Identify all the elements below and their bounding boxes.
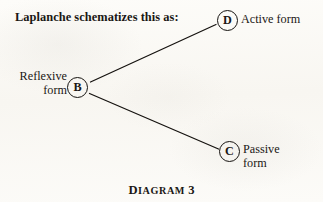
edge-b-to-d (91, 25, 217, 83)
node-label-active-line1: Active form (241, 12, 300, 26)
node-letter-c: C (225, 145, 234, 157)
node-label-passive-form: Passive form (243, 143, 280, 170)
caption-rest: IAGRAM (138, 185, 185, 196)
diagram-node-c[interactable]: C (219, 141, 240, 162)
node-letter-d: D (223, 14, 232, 26)
node-label-reflexive-line2: form (20, 84, 67, 98)
caption-initial: D (128, 183, 137, 197)
node-label-reflexive-line1: Reflexive (20, 69, 67, 83)
node-label-active-form: Active form (241, 13, 300, 27)
node-label-passive-line2: form (243, 157, 280, 171)
diagram-page: Laplanche schematizes this as: Reflexive… (0, 0, 323, 202)
diagram-edges (0, 0, 323, 202)
diagram-node-b[interactable]: B (67, 77, 88, 98)
node-label-passive-line1: Passive (243, 142, 280, 156)
node-letter-b: B (73, 81, 81, 93)
diagram-caption: DIAGRAM 3 (0, 180, 323, 198)
edge-b-to-c (90, 94, 219, 150)
caption-number: 3 (185, 183, 194, 197)
node-label-reflexive-form: Reflexive form (20, 70, 67, 97)
diagram-node-d[interactable]: D (217, 10, 238, 31)
